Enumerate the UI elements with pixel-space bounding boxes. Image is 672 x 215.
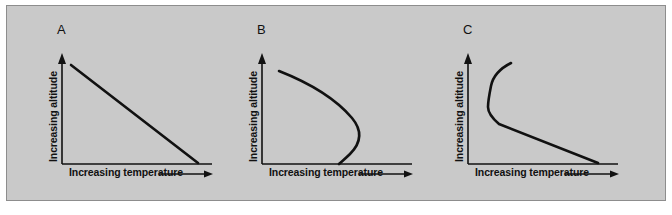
panel-c-plot [413,6,633,202]
panel-c-y-axis-arrowhead [464,53,472,64]
panel-c-x-label-arrowhead [610,171,619,178]
panel-b: B Increasing altitude Increasing tempera… [207,6,427,202]
panel-b-y-axis-arrowhead [258,53,266,64]
panel-a-y-axis-arrowhead [58,53,66,64]
figure-plate: A Increasing altitude Increasing tempera… [6,5,666,201]
panel-b-plot [207,6,427,202]
panel-c: C Increasing altitude Increasing tempera… [413,6,633,202]
figure-root: A Increasing altitude Increasing tempera… [0,0,672,215]
panel-a-plot [7,6,227,202]
panel-b-x-label-arrowhead [404,171,413,178]
panel-a-curve [71,65,198,163]
panel-b-curve [279,71,359,164]
panel-c-curve [488,63,598,163]
panel-a: A Increasing altitude Increasing tempera… [7,6,227,202]
